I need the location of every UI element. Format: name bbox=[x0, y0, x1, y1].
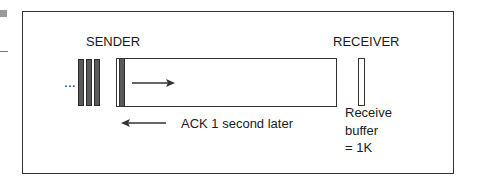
receive-buffer bbox=[358, 58, 365, 106]
receive-buffer-caption-line: buffer bbox=[345, 122, 392, 140]
receive-buffer-caption-line: = 1K bbox=[345, 139, 392, 157]
receive-buffer-caption: Receive buffer = 1K bbox=[345, 104, 392, 157]
arrows-layer bbox=[0, 0, 477, 188]
data-arrow-right-icon bbox=[132, 79, 175, 87]
receive-buffer-caption-line: Receive bbox=[345, 104, 392, 122]
ack-label: ACK 1 second later bbox=[181, 117, 293, 130]
ack-arrow-left-icon bbox=[121, 119, 166, 127]
